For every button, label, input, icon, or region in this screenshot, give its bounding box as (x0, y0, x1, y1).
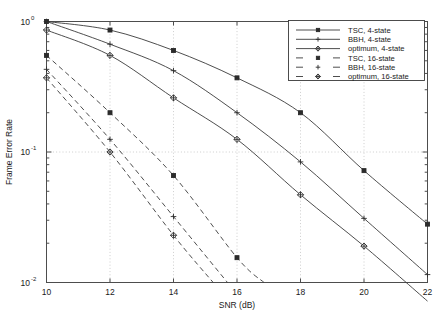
marker-diamond (107, 52, 113, 58)
y-tick-label: 10-2 (21, 276, 37, 288)
x-tick-label: 12 (105, 287, 115, 297)
marker-square (362, 169, 366, 173)
marker-plus (107, 41, 113, 47)
y-tick-label: 10-1 (21, 145, 37, 157)
marker-square (172, 174, 176, 178)
series-line (47, 78, 214, 283)
frame-error-rate-plot: 10121416182022 10010-110-2 SNR (dB) Fram… (0, 0, 448, 313)
marker-square (235, 256, 239, 260)
legend: TSC, 4-stateBBH, 4-stateoptimum, 4-state… (289, 21, 425, 82)
data-series (45, 53, 264, 282)
svg-text:-2: -2 (31, 276, 37, 282)
legend-label: optimum, 16-state (348, 72, 409, 81)
svg-text:10: 10 (21, 278, 31, 288)
marker-square (299, 111, 303, 115)
marker-square (172, 48, 176, 52)
x-tick-label: 16 (232, 287, 242, 297)
legend-label: TSC, 4-state (348, 26, 391, 35)
svg-text:-1: -1 (31, 145, 37, 151)
y-tick-label: 100 (21, 15, 35, 27)
chart-figure: 10121416182022 10010-110-2 SNR (dB) Fram… (0, 0, 448, 313)
marker-square (316, 56, 319, 59)
legend-label: optimum, 4-state (348, 44, 405, 53)
marker-square (426, 222, 430, 226)
legend-label: BBH, 16-state (348, 63, 395, 72)
legend-label: BBH, 4-state (348, 35, 391, 44)
x-tick-labels: 10121416182022 (42, 287, 433, 297)
x-tick-label: 10 (42, 287, 52, 297)
svg-text:10: 10 (21, 147, 31, 157)
svg-text:10: 10 (21, 17, 31, 27)
marker-square (316, 28, 319, 31)
marker-diamond (170, 95, 176, 101)
marker-square (108, 111, 112, 115)
legend-label: TSC, 16-state (348, 54, 395, 63)
x-tick-label: 18 (296, 287, 306, 297)
data-series (44, 67, 228, 283)
x-axis-label: SNR (dB) (219, 300, 256, 310)
marker-square (235, 76, 239, 80)
svg-text:0: 0 (31, 15, 35, 21)
marker-plus (171, 68, 177, 74)
data-series (43, 75, 213, 283)
marker-square (108, 28, 112, 32)
series-line (47, 55, 264, 282)
marker-square (45, 53, 49, 57)
x-tick-label: 14 (169, 287, 179, 297)
x-tick-label: 20 (359, 287, 369, 297)
series-line (47, 69, 228, 282)
y-axis-label: Frame Error Rate (4, 119, 14, 185)
y-tick-labels: 10010-110-2 (21, 15, 37, 288)
x-tick-label: 22 (423, 287, 433, 297)
